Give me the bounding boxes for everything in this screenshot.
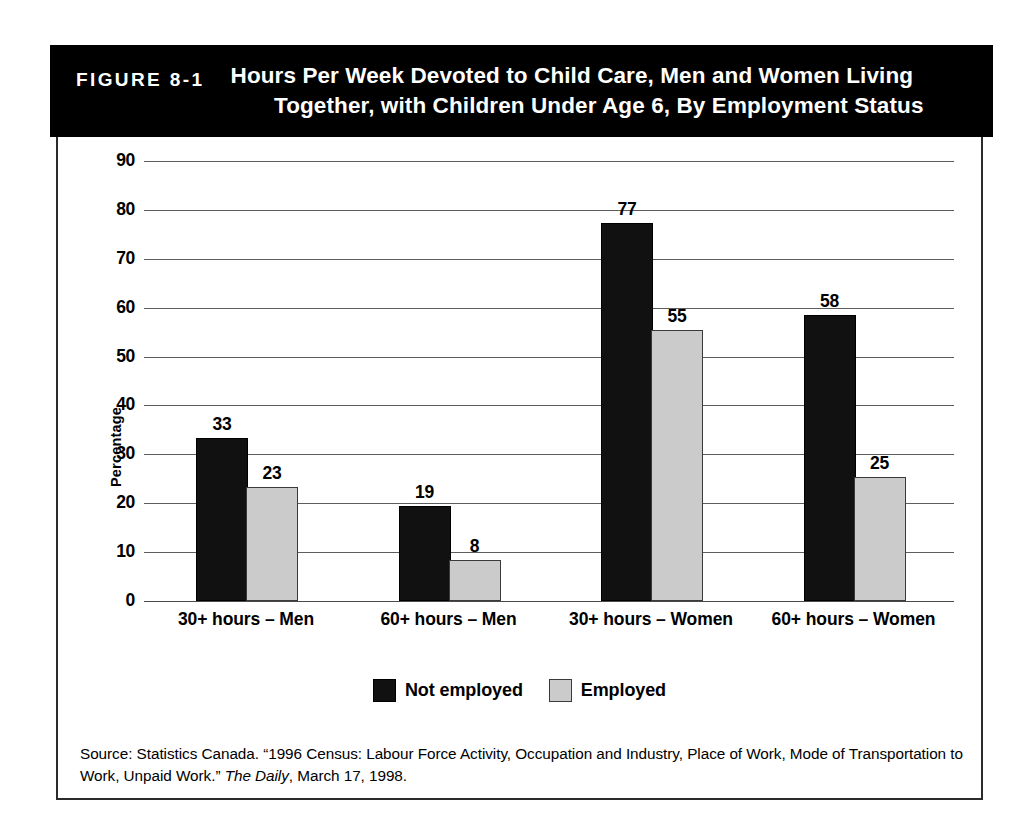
bar-value-label: 8	[470, 536, 479, 557]
bar[interactable]: 33	[196, 438, 248, 601]
bar-group: 198	[399, 161, 499, 601]
figure-number-label: FIGURE 8-1	[76, 69, 231, 113]
bar-value-label: 23	[263, 463, 282, 484]
bar[interactable]: 58	[804, 315, 856, 601]
bar-value-label: 19	[415, 482, 434, 503]
x-axis-category-label: 30+ hours – Women	[555, 609, 747, 630]
y-axis-tick-label: 20	[116, 492, 135, 513]
legend-swatch	[549, 679, 572, 702]
y-axis-tick-label: 40	[116, 394, 135, 415]
y-axis-tick-label: 60	[116, 297, 135, 318]
bar[interactable]: 8	[449, 560, 501, 601]
bar-group: 7755	[601, 161, 701, 601]
figure-title-line-2: Together, with Children Under Age 6, By …	[231, 91, 979, 121]
bar-value-label: 55	[668, 306, 687, 327]
bar[interactable]: 25	[854, 477, 906, 601]
bar[interactable]: 23	[246, 487, 298, 601]
bar[interactable]: 77	[601, 223, 653, 601]
bar[interactable]: 19	[399, 506, 451, 601]
gridline	[144, 601, 954, 602]
y-axis-tick-label: 0	[126, 590, 135, 611]
x-axis-category-label: 60+ hours – Women	[758, 609, 950, 630]
legend-item[interactable]: Not employed	[373, 679, 523, 702]
bar-value-label: 25	[870, 453, 889, 474]
x-axis-labels: 30+ hours – Men60+ hours – Men30+ hours …	[144, 609, 954, 637]
legend-item[interactable]: Employed	[549, 679, 666, 702]
source-note-prefix: Source: Statistics Canada. “1996 Census:…	[80, 745, 963, 784]
bar-group: 3323	[196, 161, 296, 601]
legend-swatch	[373, 679, 396, 702]
bars-layer: 332319877555825	[144, 161, 954, 601]
y-axis-tick-label: 30	[116, 443, 135, 464]
y-axis-tick-label: 90	[116, 150, 135, 171]
legend-label: Not employed	[405, 680, 523, 701]
legend-label: Employed	[581, 680, 666, 701]
bar-group: 5825	[804, 161, 904, 601]
chart-plot-region: Percentage 0102030405060708090 332319877…	[58, 139, 981, 798]
bar-value-label: 33	[213, 414, 232, 435]
figure-frame: FIGURE 8-1 Hours Per Week Devoted to Chi…	[56, 45, 983, 800]
source-note-publication: The Daily	[225, 767, 289, 784]
bar-value-label: 77	[618, 199, 637, 220]
bar[interactable]: 55	[651, 330, 703, 601]
source-note-suffix: , March 17, 1998.	[289, 767, 407, 784]
source-note: Source: Statistics Canada. “1996 Census:…	[80, 743, 964, 786]
y-axis-tick-label: 50	[116, 346, 135, 367]
y-axis-tick-label: 10	[116, 541, 135, 562]
y-axis-tick-label: 80	[116, 199, 135, 220]
figure-header-banner: FIGURE 8-1 Hours Per Week Devoted to Chi…	[50, 45, 993, 137]
bar-value-label: 58	[820, 291, 839, 312]
figure-title-line-1: Hours Per Week Devoted to Child Care, Me…	[231, 61, 979, 91]
x-axis-category-label: 60+ hours – Men	[353, 609, 545, 630]
figure-title: Hours Per Week Devoted to Child Care, Me…	[231, 61, 979, 121]
chart-legend: Not employedEmployed	[58, 679, 981, 702]
y-axis-tick-label: 70	[116, 248, 135, 269]
x-axis-category-label: 30+ hours – Men	[150, 609, 342, 630]
